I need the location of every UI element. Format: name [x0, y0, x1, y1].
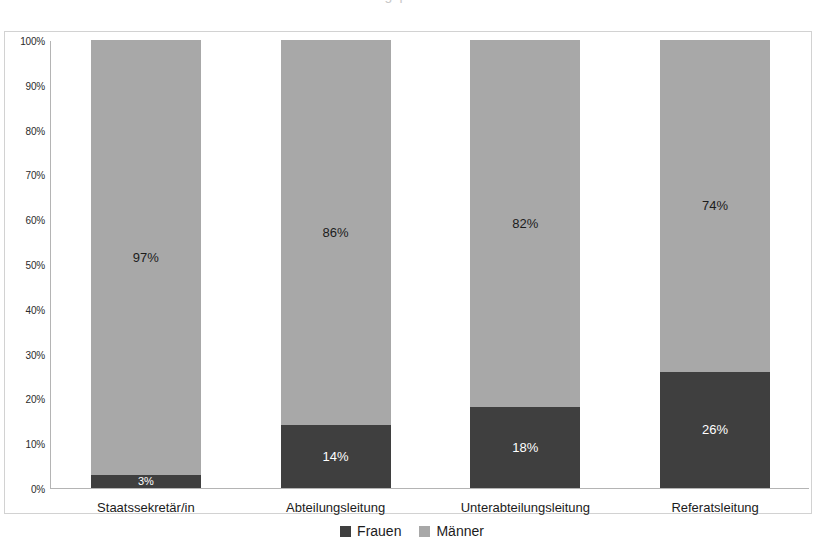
stacked-bar: 86%14%Abteilungsleitung: [281, 40, 391, 488]
chart-frame: 0%10%20%30%40%50%60%70%80%90%100% 97%3%S…: [4, 31, 812, 514]
y-axis-tick-label: 40%: [26, 304, 45, 315]
y-axis-tick-label: 10%: [26, 439, 45, 450]
legend-swatch-icon: [340, 526, 351, 537]
bar-segment-maenner: 74%: [660, 40, 770, 372]
legend-label: Männer: [436, 523, 483, 539]
y-axis-tick-label: 80%: [26, 125, 45, 136]
stacked-bar: 74%26%Referatsleitung: [660, 40, 770, 488]
legend-label: Frauen: [357, 523, 401, 539]
bar-segment-maenner: 97%: [91, 40, 201, 475]
x-axis-tick-label: Referatsleitung: [600, 500, 824, 515]
clipped-chart-title: Frauenanteil in Führungspositionen der o…: [0, 0, 824, 10]
bar-segment-maenner: 86%: [281, 40, 391, 425]
stacked-bar: 82%18%Unterabteilungsleitung: [470, 40, 580, 488]
stacked-bar: 97%3%Staatssekretär/in: [91, 40, 201, 488]
chart-title-text: Frauenanteil in Führungspositionen der o…: [190, 0, 710, 3]
y-axis-tick-label: 20%: [26, 394, 45, 405]
bar-segment-frauen: 18%: [470, 407, 580, 488]
y-axis-tick-label: 0%: [31, 484, 45, 495]
bar-value-label: 26%: [702, 423, 728, 436]
bar-value-label: 14%: [323, 450, 349, 463]
bar-value-label: 82%: [512, 217, 538, 230]
y-axis-tick-label: 70%: [26, 170, 45, 181]
y-axis-tick-label: 100%: [20, 36, 45, 47]
bar-value-label: 86%: [323, 226, 349, 239]
chart-legend: FrauenMänner: [0, 523, 824, 539]
bar-segment-frauen: 26%: [660, 372, 770, 488]
plot-area: 0%10%20%30%40%50%60%70%80%90%100% 97%3%S…: [50, 41, 809, 489]
bar-value-label: 18%: [512, 441, 538, 454]
y-axis-tick-label: 90%: [26, 80, 45, 91]
bar-value-label: 97%: [133, 251, 159, 264]
bar-value-label: 3%: [138, 476, 154, 487]
y-axis-tick-label: 60%: [26, 215, 45, 226]
bar-segment-maenner: 82%: [470, 40, 580, 407]
legend-item: Frauen: [340, 523, 401, 539]
legend-item: Männer: [419, 523, 483, 539]
y-axis-tick-label: 30%: [26, 349, 45, 360]
bar-segment-frauen: 14%: [281, 425, 391, 488]
y-axis-tick-label: 50%: [26, 260, 45, 271]
legend-swatch-icon: [419, 526, 430, 537]
bar-value-label: 74%: [702, 199, 728, 212]
bar-segment-frauen: 3%: [91, 475, 201, 488]
